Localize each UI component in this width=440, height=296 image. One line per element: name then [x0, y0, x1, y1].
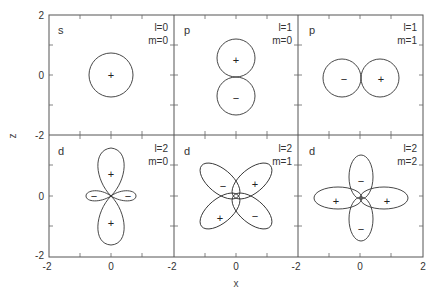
y-tick-label: -2 [35, 250, 44, 261]
phase-signs: + + − − + + + − − − + + − − + + − [91, 54, 390, 235]
panel-l-label: l=2 [403, 143, 417, 154]
plus-sign: + [108, 168, 114, 180]
panel-m-label: m=0 [148, 35, 168, 46]
plus-sign: + [108, 217, 114, 229]
x-tick-label: 0 [108, 261, 114, 272]
panel-m-label: m=2 [397, 156, 417, 167]
minus-sign: − [125, 190, 131, 202]
x-tick-labels: -2 0 -2 0 -2 0 2 [43, 261, 427, 272]
minus-sign: − [233, 92, 239, 104]
x-tick-label: 0 [357, 261, 363, 272]
x-tick-label: -2 [43, 261, 52, 272]
minus-sign: − [358, 175, 364, 187]
y-tick-labels: 2 0 -2 0 -2 [35, 10, 44, 261]
x-tick-label: -2 [292, 261, 301, 272]
minus-sign: − [252, 210, 258, 222]
orbital-figure: 2 0 -2 0 -2 -2 0 -2 0 -2 0 2 x z s l=0 m… [0, 0, 440, 296]
plus-sign: + [233, 54, 239, 66]
plus-sign: + [108, 69, 114, 81]
plus-sign: + [333, 195, 339, 207]
panel-m-label: m=1 [272, 156, 292, 167]
x-tick-label: -2 [168, 261, 177, 272]
panel-letter: p [184, 24, 190, 36]
plus-sign: + [378, 73, 384, 85]
panel-letter: d [58, 145, 64, 157]
x-tick-label: 2 [420, 261, 426, 272]
panel-l-label: l=0 [154, 22, 168, 33]
panel-l-label: l=2 [278, 143, 292, 154]
panel-l-label: l=1 [278, 22, 292, 33]
panel-l-label: l=2 [154, 143, 168, 154]
panel-m-label: m=0 [272, 35, 292, 46]
plus-sign: + [217, 212, 223, 224]
px-orbital-shape [323, 59, 399, 97]
y-tick-label: -2 [35, 130, 44, 141]
panel-letter: d [184, 145, 190, 157]
minus-sign: − [91, 190, 97, 202]
panel-m-label: m=1 [397, 35, 417, 46]
y-tick-label: 0 [38, 70, 44, 81]
x-axis-title: x [234, 278, 239, 289]
plus-sign: + [252, 178, 258, 190]
panel-l-label: l=1 [403, 22, 417, 33]
panel-letter: p [309, 24, 315, 36]
minus-sign: − [341, 73, 347, 85]
panel-m-label: m=0 [148, 156, 168, 167]
minus-sign: − [358, 223, 364, 235]
panel-letter: d [309, 145, 315, 157]
dxz-orbital-shape [194, 156, 278, 235]
y-tick-label: 0 [38, 191, 44, 202]
tick-marks [49, 15, 423, 257]
plus-sign: + [384, 195, 390, 207]
x-tick-label: 0 [233, 261, 239, 272]
minus-sign: − [220, 180, 226, 192]
y-tick-label: 2 [38, 10, 44, 21]
y-axis-title: z [7, 134, 18, 139]
panel-letter: s [58, 24, 64, 36]
